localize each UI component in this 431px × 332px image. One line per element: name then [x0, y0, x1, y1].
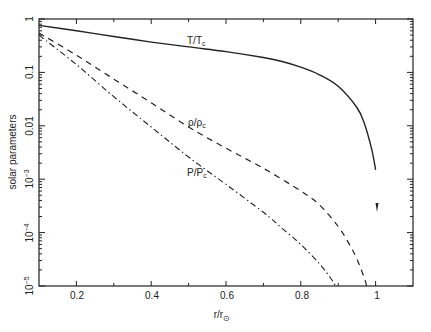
density-label: ρ/ρc: [188, 117, 206, 129]
x-axis-title: r/r⊙: [214, 309, 230, 323]
y-tick-1e-3-base: 10: [24, 177, 35, 189]
pressure-label-main: P/P: [187, 167, 203, 178]
temperature-label-main: T/T: [187, 35, 202, 46]
pressure-curve: [39, 35, 336, 286]
y-tick-1e-3: 10−3: [23, 169, 35, 188]
x-axis-title-sub: ⊙: [223, 314, 230, 323]
y-tick-0.1: 0.1: [24, 65, 35, 79]
y-tick-1e-5-base: 10: [24, 284, 35, 296]
curves: [39, 25, 379, 286]
temperature-label: T/Tc: [187, 35, 206, 47]
y-tick-0.01: 0.01: [24, 116, 35, 136]
density-curve: [39, 33, 367, 286]
x-tick-labels: 0.2 0.4 0.6 0.8 1: [70, 290, 380, 301]
temperature-curve-end-marker: [376, 203, 379, 212]
y-tick-1e-3-exp: −3: [23, 169, 30, 177]
y-tick-labels: 1 0.1 0.01 10−3 10−4 10−5: [23, 16, 35, 296]
temperature-curve: [39, 25, 376, 169]
y-tick-1e-5-exp: −5: [23, 276, 30, 284]
density-label-main: ρ/ρ: [188, 117, 202, 128]
plot-frame: [39, 19, 413, 286]
y-tick-1e-5: 10−5: [23, 276, 35, 295]
density-label-sub: c: [202, 122, 206, 129]
temperature-label-sub: c: [202, 40, 206, 47]
x-tick-1: 1: [374, 290, 380, 301]
x-tick-0.4: 0.4: [145, 290, 159, 301]
y-tick-1e-4-exp: −4: [23, 223, 30, 231]
pressure-label-sub: c: [203, 172, 207, 179]
axis-ticks: [39, 19, 413, 286]
x-tick-0.8: 0.8: [295, 290, 309, 301]
y-tick-1: 1: [24, 16, 35, 22]
y-tick-1e-4-base: 10: [24, 231, 35, 243]
y-axis-title: solar parameters: [7, 114, 18, 189]
y-tick-1e-4: 10−4: [23, 223, 35, 242]
solar-parameters-chart: 0.2 0.4 0.6 0.8 1 r/r⊙ 1 0.1 0.01 10−3 1…: [0, 0, 431, 332]
x-tick-0.6: 0.6: [220, 290, 234, 301]
x-tick-0.2: 0.2: [70, 290, 84, 301]
